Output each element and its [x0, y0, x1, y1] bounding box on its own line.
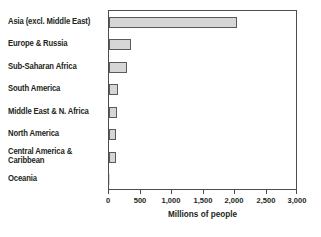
bar-chart: Asia (excl. Middle East)Europe & RussiaS… — [0, 0, 321, 237]
x-tick — [296, 190, 297, 194]
bar — [109, 129, 116, 140]
bar — [109, 152, 116, 163]
category-label: Asia (excl. Middle East) — [8, 17, 100, 26]
category-label: Europe & Russia — [8, 39, 100, 48]
x-tick-label: 0 — [106, 196, 110, 205]
bar — [109, 84, 118, 95]
x-tick-label: 2,000 — [225, 196, 244, 205]
bar — [109, 62, 127, 73]
x-tick-label: 2,500 — [256, 196, 275, 205]
x-tick-label: 1,500 — [193, 196, 212, 205]
x-tick-label: 500 — [133, 196, 146, 205]
x-tick — [171, 190, 172, 194]
x-axis-title: Millions of people — [108, 210, 297, 219]
x-tick — [108, 190, 109, 194]
x-tick — [203, 190, 204, 194]
x-axis-ticks — [108, 190, 297, 195]
x-tick — [234, 190, 235, 194]
bars-layer — [109, 11, 296, 189]
x-tick — [140, 190, 141, 194]
category-label: Oceania — [8, 174, 100, 183]
x-tick-label: 1,000 — [162, 196, 181, 205]
x-tick — [266, 190, 267, 194]
x-tick-label: 3,000 — [288, 196, 307, 205]
bar — [109, 17, 237, 28]
x-axis-tick-labels: 05001,0001,5002,0002,5003,000 — [0, 196, 321, 208]
category-label-column: Asia (excl. Middle East)Europe & RussiaS… — [0, 10, 104, 190]
plot-area — [108, 10, 297, 190]
bar — [109, 174, 110, 185]
category-label: Sub-Saharan Africa — [8, 62, 100, 71]
bar — [109, 39, 131, 50]
bar — [109, 107, 117, 118]
category-label: North America — [8, 129, 100, 138]
category-label: Middle East & N. Africa — [8, 107, 100, 116]
category-label: Central America & Caribbean — [8, 147, 100, 166]
category-label: South America — [8, 84, 100, 93]
